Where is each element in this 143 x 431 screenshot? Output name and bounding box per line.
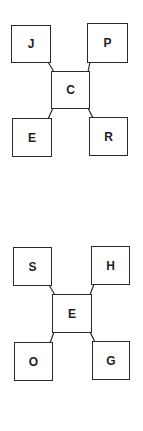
box-label: E <box>28 131 36 145</box>
diagram-2-bottom-right-box: G <box>92 341 130 380</box>
box-label: G <box>106 354 115 368</box>
box-label: R <box>104 130 113 144</box>
box-label: S <box>28 260 36 274</box>
diagram-2-top-left-box: S <box>13 247 52 286</box>
box-label: E <box>68 307 76 321</box>
diagram-2-center-box: E <box>52 294 92 333</box>
diagram-1-center-box: C <box>51 71 90 109</box>
diagram-1-top-left-box: J <box>11 25 51 63</box>
box-label: P <box>103 36 111 50</box>
diagram-2-top-right-box: H <box>91 246 130 285</box>
box-label: O <box>29 355 38 369</box>
diagram-2-bottom-left-box: O <box>14 342 53 381</box>
diagram-1-bottom-right-box: R <box>89 117 128 156</box>
diagram-1-bottom-left-box: E <box>12 118 52 157</box>
diagram-1-top-right-box: P <box>87 23 128 63</box>
box-label: H <box>106 259 115 273</box>
box-label: J <box>28 37 35 51</box>
box-label: C <box>66 83 75 97</box>
